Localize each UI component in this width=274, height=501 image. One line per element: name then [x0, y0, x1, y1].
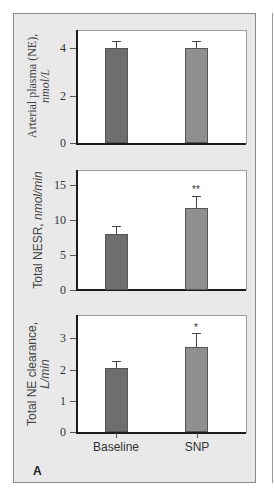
y-tick	[70, 432, 76, 433]
y-tick	[70, 370, 76, 371]
y-axis-unit: nmol/min	[31, 171, 45, 220]
bar-snp	[185, 347, 208, 432]
error-bar-snp	[196, 41, 197, 48]
error-cap-baseline	[112, 41, 121, 42]
y-tick	[70, 48, 76, 49]
y-tick-label: 4	[50, 42, 66, 54]
x-tick	[197, 433, 198, 438]
significance-marker: *	[186, 322, 206, 333]
error-cap-snp	[192, 333, 201, 334]
y-axis-label: Total NE clearance, L/min	[26, 314, 52, 434]
y-axis	[76, 170, 78, 290]
plot-area	[77, 30, 247, 144]
error-cap-baseline	[112, 361, 121, 362]
bar-baseline	[105, 234, 128, 290]
error-cap-snp	[192, 41, 201, 42]
y-axis	[76, 315, 78, 433]
y-axis	[76, 30, 78, 144]
y-axis-unit: nmol/L	[38, 69, 52, 103]
bar-baseline	[105, 48, 128, 143]
error-bar-snp	[196, 196, 197, 208]
x-category-snp: SNP	[167, 440, 227, 454]
error-bar-baseline	[116, 226, 117, 234]
y-tick-label: 0	[50, 426, 66, 438]
panel-letter: A	[33, 464, 42, 478]
x-axis	[76, 432, 246, 434]
y-axis-label-line2: nmol/L	[39, 26, 52, 146]
x-axis	[76, 289, 246, 291]
bar-snp	[185, 208, 208, 290]
y-tick-label: 10	[50, 214, 66, 226]
y-axis-label-line2: L/min	[39, 314, 52, 434]
y-tick	[70, 96, 76, 97]
x-category-baseline: Baseline	[86, 440, 146, 454]
x-axis	[76, 143, 246, 145]
y-axis-label-text: Total NESR, nmol/min	[32, 170, 45, 290]
error-cap-snp	[192, 196, 201, 197]
y-axis-label: Arterial plasma (NE), nmol/L	[26, 26, 52, 146]
bar-baseline	[105, 368, 128, 432]
y-tick-label: 15	[50, 179, 66, 191]
error-bar-baseline	[116, 41, 117, 48]
error-bar-snp	[196, 333, 197, 347]
y-tick-label: 2	[50, 364, 66, 376]
error-cap-baseline	[112, 226, 121, 227]
y-tick-label: 5	[50, 249, 66, 261]
plot-area	[77, 170, 247, 290]
y-tick-label: 2	[50, 90, 66, 102]
adjacent-panel-edge	[272, 13, 273, 483]
significance-marker: **	[186, 184, 206, 195]
y-tick	[70, 401, 76, 402]
y-tick-label: 1	[50, 395, 66, 407]
y-axis-unit: L/min	[38, 359, 52, 388]
y-tick	[70, 255, 76, 256]
y-tick	[70, 290, 76, 291]
y-tick-label: 0	[50, 284, 66, 296]
error-bar-baseline	[116, 361, 117, 368]
x-tick	[116, 433, 117, 438]
y-tick-label: 3	[50, 332, 66, 344]
bar-snp	[185, 48, 208, 143]
y-tick	[70, 220, 76, 221]
y-tick	[70, 143, 76, 144]
y-tick	[70, 185, 76, 186]
plot-area	[77, 315, 247, 433]
y-tick-label: 0	[50, 137, 66, 149]
y-axis-label: Total NESR, nmol/min	[32, 170, 45, 290]
y-tick	[70, 338, 76, 339]
